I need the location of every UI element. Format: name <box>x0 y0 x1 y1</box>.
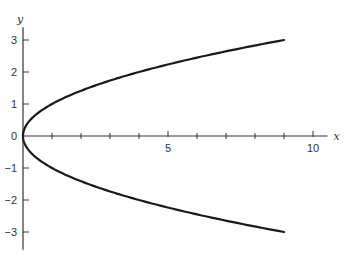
upper-branch-curve <box>23 40 284 136</box>
x-axis-label: x <box>334 130 341 143</box>
x-tick-label: 10 <box>307 142 319 154</box>
parabola-chart: 5103210−1−2−3yx <box>0 0 357 255</box>
y-tick-label: 1 <box>11 98 17 110</box>
y-tick-label: −3 <box>4 226 17 238</box>
y-tick-label: 3 <box>11 34 17 46</box>
axes <box>23 27 328 250</box>
x-tick-label: 5 <box>165 142 171 154</box>
y-axis-label: y <box>16 13 24 26</box>
y-tick-label: −2 <box>4 194 17 206</box>
lower-branch-curve <box>23 136 284 232</box>
labels: 5103210−1−2−3yx <box>4 13 340 238</box>
y-tick-label: 0 <box>11 130 17 142</box>
y-tick-label: −1 <box>4 162 17 174</box>
y-tick-label: 2 <box>11 66 17 78</box>
